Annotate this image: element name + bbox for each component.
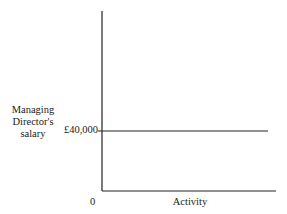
- fixed-cost-chart: Managing Director's salary £40,000 0 Act…: [0, 0, 287, 214]
- y-axis-label: Managing Director's salary: [2, 104, 64, 140]
- y-axis-label-line: salary: [2, 128, 64, 140]
- origin-label: 0: [90, 196, 95, 207]
- y-tick-label: £40,000: [62, 124, 98, 135]
- y-axis-label-line: Managing: [2, 104, 64, 116]
- x-axis-label: Activity: [160, 196, 220, 207]
- y-axis-label-line: Director's: [2, 116, 64, 128]
